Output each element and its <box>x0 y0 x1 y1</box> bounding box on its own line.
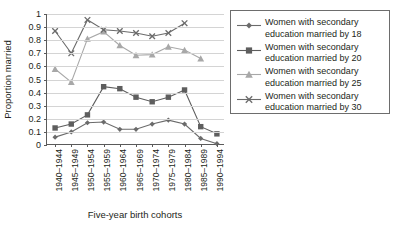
x-axis-tick <box>120 144 121 147</box>
gridline <box>47 93 224 94</box>
data-point-cross <box>85 17 91 23</box>
x-axis-tick-label: 1945–1949 <box>70 149 80 192</box>
legend-item-1[interactable]: Women with secondary education married b… <box>236 42 385 65</box>
y-axis-tick <box>44 27 47 28</box>
chart-figure: Proportion married 00.10.20.30.40.50.60.… <box>0 0 395 232</box>
y-axis-tick-label: 0.5 <box>28 75 41 85</box>
legend-item-3[interactable]: Women with secondary education married b… <box>236 91 385 114</box>
y-axis-tick-label: 0.6 <box>28 61 41 71</box>
y-axis-tick-label: 0.1 <box>28 127 41 137</box>
x-axis-tick <box>152 144 153 147</box>
x-axis-tick <box>201 144 202 147</box>
y-axis-tick-label: 0.2 <box>28 114 41 124</box>
x-axis-tick <box>71 144 72 147</box>
y-axis-tick <box>44 106 47 107</box>
x-axis-tick <box>168 144 169 147</box>
x-axis-tick-label: 1955–1959 <box>102 149 112 192</box>
data-point-square <box>198 124 203 129</box>
x-axis-tick-label: 1990–1994 <box>215 149 225 192</box>
data-point-diamond <box>52 135 57 140</box>
y-axis-tick <box>44 93 47 94</box>
data-point-cross <box>182 20 188 26</box>
y-axis-title: Proportion married <box>2 14 14 145</box>
legend-marker-triangle-icon <box>236 68 262 81</box>
gridline <box>47 66 224 67</box>
data-point-square <box>85 112 90 117</box>
series-3 <box>52 17 187 56</box>
x-axis-tick <box>217 144 218 147</box>
x-axis-tick <box>136 144 137 147</box>
legend-label: Women with secondary education married b… <box>262 17 385 40</box>
data-point-square <box>52 125 57 130</box>
data-point-diamond <box>150 121 155 126</box>
data-point-diamond <box>101 119 106 124</box>
y-axis-tick <box>44 119 47 120</box>
y-axis-tick <box>44 66 47 67</box>
data-point-square <box>166 94 171 99</box>
x-axis-tick-label: 1980–1984 <box>183 149 193 192</box>
legend-label: Women with secondary education married b… <box>262 66 385 89</box>
y-axis-tick <box>44 145 47 146</box>
plot-area: 00.10.20.30.40.50.60.70.80.911940–194419… <box>46 14 224 145</box>
y-axis-tick-label: 0 <box>36 140 41 150</box>
x-axis-tick <box>87 144 88 147</box>
y-axis-tick <box>44 40 47 41</box>
x-axis-tick-label: 1965–1969 <box>135 149 145 192</box>
data-point-square <box>69 121 74 126</box>
data-point-diamond <box>85 120 90 125</box>
legend-item-0[interactable]: Women with secondary education married b… <box>236 17 385 40</box>
x-axis-title: Five-year birth cohorts <box>46 209 224 220</box>
y-axis-tick <box>44 53 47 54</box>
gridline <box>47 53 224 54</box>
gridline <box>47 106 224 107</box>
data-point-square <box>117 86 122 91</box>
gridline <box>47 27 224 28</box>
data-point-square <box>133 94 138 99</box>
legend-marker-diamond-icon <box>236 19 262 32</box>
legend-label: Women with secondary education married b… <box>262 91 385 114</box>
y-axis-tick-label: 0.3 <box>28 101 41 111</box>
gridline <box>47 40 224 41</box>
x-axis-tick <box>55 144 56 147</box>
x-axis-tick <box>104 144 105 147</box>
x-axis-tick-label: 1985–1989 <box>199 149 209 192</box>
x-axis-tick-label: 1960–1964 <box>118 149 128 192</box>
y-axis-tick-label: 0.8 <box>28 35 41 45</box>
data-point-square <box>246 47 252 53</box>
gridline <box>47 119 224 120</box>
data-point-triangle <box>165 43 172 49</box>
series-2 <box>52 28 204 85</box>
x-axis-tick-label: 1970–1974 <box>151 149 161 192</box>
legend-marker-cross-icon <box>236 93 262 106</box>
data-point-square <box>149 99 154 104</box>
legend-marker-square-icon <box>236 44 262 57</box>
data-point-triangle <box>197 55 204 61</box>
data-point-diamond <box>246 23 252 29</box>
gridline <box>47 132 224 133</box>
data-point-square <box>101 84 106 89</box>
x-axis-tick-label: 1975–1979 <box>167 149 177 192</box>
y-axis-tick-label: 0.7 <box>28 48 41 58</box>
y-axis-tick <box>44 14 47 15</box>
x-axis-tick <box>185 144 186 147</box>
y-axis-tick-label: 1 <box>36 9 41 19</box>
legend-label: Women with secondary education married b… <box>262 42 385 65</box>
y-axis-tick-label: 0.9 <box>28 22 41 32</box>
data-point-cross <box>52 28 58 34</box>
x-axis-tick-label: 1950–1954 <box>86 149 96 192</box>
gridline <box>47 14 224 15</box>
y-axis-tick-label: 0.4 <box>28 88 41 98</box>
y-axis-tick <box>44 132 47 133</box>
legend-item-2[interactable]: Women with secondary education married b… <box>236 66 385 89</box>
gridline <box>47 80 224 81</box>
legend: Women with secondary education married b… <box>230 10 390 114</box>
y-axis-tick <box>44 80 47 81</box>
x-axis-tick-label: 1940–1944 <box>54 149 64 192</box>
